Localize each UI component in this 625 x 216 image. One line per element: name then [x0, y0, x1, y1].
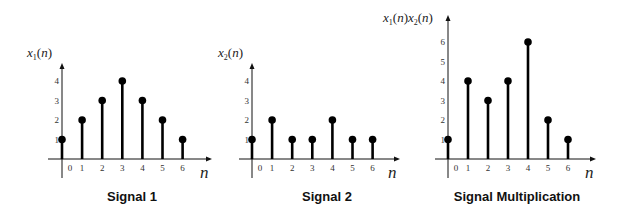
y-tick-label: 5 — [441, 57, 446, 67]
stem-marker — [349, 136, 357, 144]
y-tick-label: 2 — [245, 115, 250, 125]
x-tick-label: 5 — [546, 163, 551, 173]
x-tick-label: 4 — [526, 163, 531, 173]
x-tick-label: 4 — [330, 163, 335, 173]
x-tick-label: 3 — [310, 163, 315, 173]
signal-2-chart: 12340123456x2(n)nSignal 2 — [217, 45, 400, 204]
y-tick-label: 2 — [441, 115, 446, 125]
x-tick-label: 2 — [486, 163, 491, 173]
stem-marker — [309, 136, 317, 144]
stem-marker — [179, 136, 187, 144]
y-axis-arrow-icon — [60, 63, 65, 69]
stem-marker — [139, 97, 147, 105]
x-tick-label: 2 — [100, 163, 105, 173]
x-tick-label: 0 — [68, 163, 73, 173]
stem-marker — [464, 77, 472, 85]
stem-marker — [544, 116, 552, 124]
stem-marker — [524, 38, 532, 46]
y-tick-label: 4 — [441, 76, 446, 86]
stem-marker — [444, 136, 452, 144]
x-tick-label: 0 — [258, 163, 263, 173]
stem-marker — [484, 97, 492, 105]
stem-marker — [248, 136, 256, 144]
x-tick-label: 4 — [140, 163, 145, 173]
y-tick-label: 4 — [55, 76, 60, 86]
stem-marker — [369, 136, 377, 144]
signal-1-chart: 12340123456x1(n)nSignal 1 — [26, 45, 212, 204]
stem-marker — [78, 116, 86, 124]
x-axis-arrow-icon — [590, 157, 596, 162]
y-tick-label: 3 — [245, 96, 250, 106]
stem-marker — [329, 116, 337, 124]
x-axis-label: n — [585, 163, 594, 182]
x-axis-label: n — [388, 163, 397, 182]
stem-marker — [98, 97, 106, 105]
x-tick-label: 5 — [160, 163, 165, 173]
y-axis-label: x1(n) — [26, 45, 52, 62]
x-tick-label: 6 — [180, 163, 185, 173]
stem-marker — [58, 136, 66, 144]
stem-marker — [119, 77, 127, 85]
y-tick-label: 6 — [441, 37, 446, 47]
x-tick-label: 0 — [454, 163, 459, 173]
x-axis-label: n — [200, 163, 209, 182]
x-tick-label: 6 — [566, 163, 571, 173]
x-tick-label: 3 — [506, 163, 511, 173]
y-axis-arrow-icon — [446, 15, 451, 21]
x-tick-label: 5 — [350, 163, 355, 173]
x-axis-arrow-icon — [206, 157, 212, 162]
y-axis-arrow-icon — [250, 63, 255, 69]
chart-caption: Signal 1 — [107, 189, 157, 204]
stem-marker — [159, 116, 167, 124]
y-axis-label: x2(n) — [217, 45, 243, 62]
x-tick-label: 1 — [80, 163, 85, 173]
y-tick-label: 4 — [245, 76, 250, 86]
x-tick-label: 1 — [270, 163, 275, 173]
chart-caption: Signal 2 — [302, 189, 352, 204]
stem-marker — [564, 136, 572, 144]
x-tick-label: 3 — [120, 163, 125, 173]
stem-marker — [288, 136, 296, 144]
stem-marker — [268, 116, 276, 124]
x-tick-label: 6 — [370, 163, 375, 173]
x-tick-label: 2 — [290, 163, 295, 173]
y-tick-label: 3 — [441, 96, 446, 106]
x-tick-label: 1 — [466, 163, 471, 173]
y-tick-label: 3 — [55, 96, 60, 106]
y-tick-label: 2 — [55, 115, 60, 125]
signal-multiplication-chart: 1234560123456x1(n)x2(n)nSignal Multiplic… — [382, 10, 596, 204]
stem-marker — [504, 77, 512, 85]
y-axis-label: x1(n)x2(n) — [382, 10, 433, 27]
x-axis-arrow-icon — [394, 157, 400, 162]
signal-charts-canvas: 12340123456x1(n)nSignal 1 12340123456x2(… — [0, 0, 625, 216]
chart-caption: Signal Multiplication — [454, 189, 580, 204]
